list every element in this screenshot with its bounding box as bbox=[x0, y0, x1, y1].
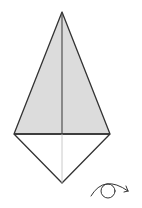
turn-over-icon bbox=[91, 184, 128, 198]
origami-diagram bbox=[0, 0, 142, 208]
